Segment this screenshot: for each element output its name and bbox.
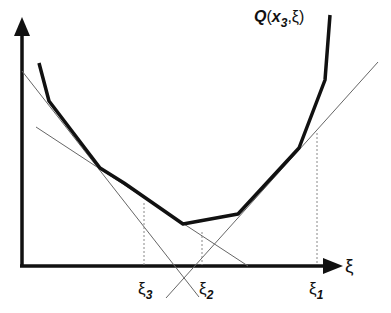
- function-label: Q(x3,ξ): [254, 8, 304, 30]
- diagram-svg: [0, 0, 391, 313]
- x-axis-arrow-icon: [323, 258, 343, 274]
- cut-line-1: [22, 71, 199, 297]
- x-axis-label: ξ: [345, 255, 354, 277]
- xi3-label: ξ3: [138, 279, 152, 302]
- diagram-canvas: Q(x3,ξ) ξ ξ3 ξ2 ξ1: [0, 0, 391, 313]
- xi2-label: ξ2: [199, 279, 213, 302]
- y-axis-arrow-icon: [14, 17, 30, 36]
- q-function-curve: [39, 15, 330, 224]
- xi1-label: ξ1: [309, 279, 323, 302]
